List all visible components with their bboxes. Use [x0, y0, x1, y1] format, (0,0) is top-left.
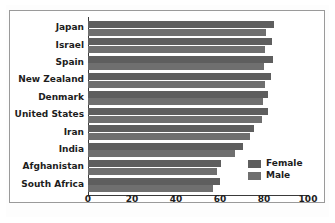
- category-label: Japan: [10, 19, 88, 36]
- bar-male: [88, 133, 250, 140]
- bar-male: [88, 81, 265, 88]
- bar-female: [88, 178, 220, 185]
- bar-male: [88, 185, 213, 192]
- x-axis-tick-label: 80: [258, 195, 271, 204]
- bar-female: [88, 38, 272, 45]
- bar-female: [88, 56, 273, 63]
- x-axis-tick-label: 40: [170, 195, 183, 204]
- x-axis-tick-label: 100: [299, 195, 318, 204]
- bar-group: [88, 19, 308, 36]
- bar-male: [88, 46, 265, 53]
- category-label: New Zealand: [10, 71, 88, 88]
- bar-male: [88, 98, 263, 105]
- category-label: Denmark: [10, 89, 88, 106]
- bar-female: [88, 91, 268, 98]
- legend-label: Male: [266, 171, 290, 180]
- category-label: India: [10, 141, 88, 158]
- bar-female: [88, 160, 221, 167]
- legend-swatch-icon: [248, 160, 261, 168]
- category-label: Israel: [10, 36, 88, 53]
- chart-card: JapanIsraelSpainNew ZealandDenmarkUnited…: [6, 5, 329, 217]
- bar-female: [88, 73, 271, 80]
- category-label: United States: [10, 106, 88, 123]
- legend-item: Male: [248, 171, 322, 180]
- bar-group: [88, 54, 308, 71]
- legend-swatch-icon: [248, 172, 261, 180]
- bar-male: [88, 63, 264, 70]
- bar-group: [88, 123, 308, 140]
- chart-figure: JapanIsraelSpainNew ZealandDenmarkUnited…: [0, 0, 335, 223]
- bar-group: [88, 106, 308, 123]
- bar-group: [88, 36, 308, 53]
- bar-female: [88, 143, 243, 150]
- bar-group: [88, 89, 308, 106]
- bar-female: [88, 125, 254, 132]
- legend-label: Female: [266, 159, 303, 168]
- plot-frame: JapanIsraelSpainNew ZealandDenmarkUnited…: [9, 10, 325, 203]
- category-axis: JapanIsraelSpainNew ZealandDenmarkUnited…: [10, 19, 88, 193]
- category-label: Spain: [10, 54, 88, 71]
- category-label: Afghanistan: [10, 158, 88, 175]
- category-label: Iran: [10, 123, 88, 140]
- category-label: South Africa: [10, 176, 88, 193]
- bar-male: [88, 168, 217, 175]
- bar-female: [88, 108, 268, 115]
- bar-male: [88, 116, 262, 123]
- x-axis-tick-label: 60: [214, 195, 227, 204]
- bar-group: [88, 71, 308, 88]
- x-axis-ticks: 020406080100: [88, 195, 318, 209]
- bar-male: [88, 150, 235, 157]
- bar-group: [88, 141, 308, 158]
- x-axis-tick-label: 20: [126, 195, 139, 204]
- x-axis-tick-label: 0: [85, 195, 91, 204]
- bar-female: [88, 21, 274, 28]
- legend-item: Female: [248, 159, 322, 168]
- bar-male: [88, 29, 266, 36]
- chart-legend: FemaleMale: [246, 157, 322, 185]
